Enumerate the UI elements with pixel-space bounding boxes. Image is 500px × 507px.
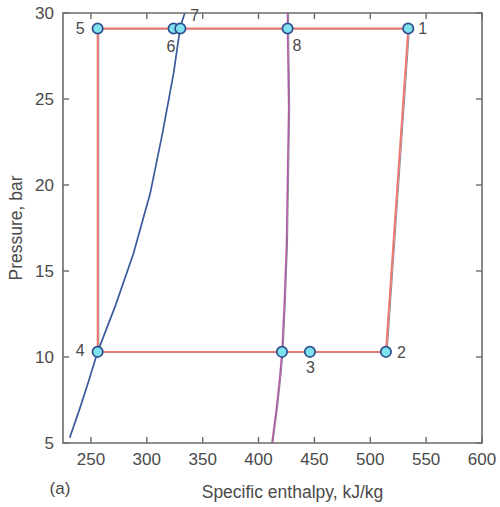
state-point-label: 3 bbox=[306, 359, 315, 376]
cycle-path-shadow bbox=[99, 29, 410, 352]
x-tick-label: 500 bbox=[356, 450, 384, 469]
x-tick-label: 250 bbox=[77, 450, 105, 469]
state-point-label: 6 bbox=[167, 38, 176, 55]
cycle-path bbox=[98, 28, 409, 351]
y-tick-label: 5 bbox=[45, 434, 54, 453]
y-tick-label: 25 bbox=[35, 90, 54, 109]
y-axis-title: Pressure, bar bbox=[6, 175, 26, 280]
y-tick-label: 30 bbox=[35, 4, 54, 23]
state-point-label: 4 bbox=[76, 342, 85, 359]
plot-markers-group bbox=[92, 23, 413, 357]
plot-axes-group bbox=[63, 13, 482, 443]
state-point-label: 5 bbox=[76, 20, 85, 37]
x-tick-label: 450 bbox=[300, 450, 328, 469]
state-point-marker[interactable] bbox=[175, 23, 185, 33]
state-point-marker[interactable] bbox=[305, 347, 315, 357]
state-point-marker[interactable] bbox=[381, 347, 391, 357]
state-point-label: 2 bbox=[397, 344, 406, 361]
state-point-marker[interactable] bbox=[92, 23, 102, 33]
saturated-vapor-line bbox=[272, 13, 289, 443]
ph-diagram-svg: 25030035040045050055060051015202530Speci… bbox=[0, 0, 500, 507]
saturated-liquid-line bbox=[70, 13, 185, 438]
panel-label: (a) bbox=[50, 479, 71, 498]
y-tick-label: 20 bbox=[35, 176, 54, 195]
x-tick-label: 300 bbox=[133, 450, 161, 469]
state-point-label: 1 bbox=[418, 20, 427, 37]
ph-diagram-figure: 25030035040045050055060051015202530Speci… bbox=[0, 0, 500, 507]
state-point-marker[interactable] bbox=[282, 23, 292, 33]
x-tick-label: 550 bbox=[412, 450, 440, 469]
state-point-marker[interactable] bbox=[277, 347, 287, 357]
plot-curves-group bbox=[70, 13, 410, 443]
state-point-marker[interactable] bbox=[92, 347, 102, 357]
state-point-label: 8 bbox=[293, 37, 302, 54]
axes-frame bbox=[63, 13, 482, 443]
x-tick-label: 600 bbox=[468, 450, 496, 469]
plot-text-group: 25030035040045050055060051015202530Speci… bbox=[6, 4, 496, 502]
x-tick-label: 400 bbox=[244, 450, 272, 469]
x-axis-title: Specific enthalpy, kJ/kg bbox=[202, 482, 384, 502]
x-tick-label: 350 bbox=[188, 450, 216, 469]
state-point-label: 7 bbox=[190, 7, 199, 24]
state-point-marker[interactable] bbox=[403, 23, 413, 33]
y-tick-label: 15 bbox=[35, 262, 54, 281]
y-tick-label: 10 bbox=[35, 348, 54, 367]
